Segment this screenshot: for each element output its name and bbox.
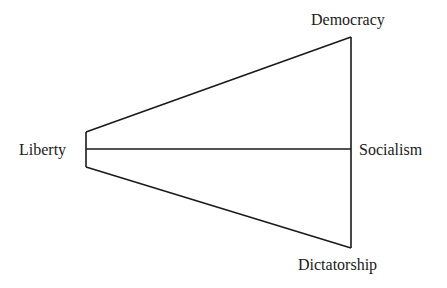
node-label-democracy: Democracy bbox=[311, 11, 385, 29]
node-label-liberty: Liberty bbox=[19, 141, 66, 159]
edge-liberty-democracy bbox=[86, 37, 351, 132]
node-label-dictatorship: Dictatorship bbox=[298, 256, 377, 274]
node-label-socialism: Socialism bbox=[359, 141, 422, 159]
edge-liberty-dictatorship bbox=[86, 167, 351, 248]
